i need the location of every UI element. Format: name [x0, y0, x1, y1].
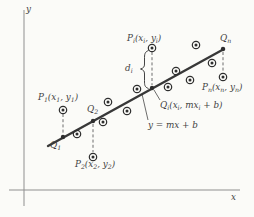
q2-label: Q2 [87, 104, 98, 115]
label-pointer-line [142, 94, 148, 120]
qn-label-text: Q [220, 33, 227, 43]
di-brace [141, 51, 149, 89]
x-axis-label: x [231, 192, 236, 202]
scatter-point-dot [195, 44, 198, 47]
line-point-dot [221, 47, 225, 51]
line-point-dot [61, 135, 65, 139]
di-label: di [125, 63, 133, 74]
scatter-point-dot [211, 62, 214, 65]
scatter-point-dot [189, 79, 192, 82]
qi-label-text: , mx [180, 100, 199, 110]
y-axis-label: y [25, 4, 32, 14]
line-point-dot [150, 86, 154, 90]
pn-label-text: (x [212, 82, 220, 92]
p2-label-text: ) [111, 159, 116, 169]
q2-label-text: 2 [93, 108, 98, 115]
equation-label: y = mx + b [147, 120, 198, 130]
equation-label-text: y = mx + b [147, 120, 198, 130]
p2-label-text: (x [85, 159, 93, 169]
scatter-point-dot [62, 109, 65, 112]
q2-label-text: Q [87, 104, 94, 114]
least-squares-figure: yxP1(x1, y1)Q1P2(x2, y2)Q2Pi(xi, yi)diQi… [0, 0, 254, 217]
y-axis-label-text: y [25, 4, 32, 14]
p1-label-text: (x [48, 92, 56, 102]
pi-label-text: ) [157, 33, 162, 43]
scatter-point-dot [151, 47, 154, 50]
scatter-point-dot [76, 133, 79, 136]
pn-label-text: ) [238, 82, 243, 92]
pi-label-text: (x [135, 33, 143, 43]
p1-label-text: ) [74, 92, 79, 102]
label-pointer-line [154, 90, 160, 100]
pi-label: Pi(xi, yi) [126, 33, 162, 44]
scatter-point-dot [107, 101, 110, 104]
diagram-svg: yxP1(x1, y1)Q1P2(x2, y2)Q2Pi(xi, yi)diQi… [0, 0, 254, 217]
p1-label: P1(x1, y1) [37, 92, 79, 103]
scatter-point-dot [175, 70, 178, 73]
qi-label-text: (x [169, 100, 177, 110]
scatter-point-dot [136, 88, 139, 91]
q1-label-text: 1 [57, 144, 61, 151]
qn-label-text: n [227, 37, 231, 44]
di-label-text: i [131, 67, 133, 74]
qn-label: Qn [220, 33, 231, 44]
x-axis-label-text: x [231, 192, 236, 202]
qi-label-text: + b) [200, 100, 223, 110]
scatter-point-dot [222, 76, 225, 79]
q1-label: Q1 [50, 140, 61, 151]
scatter-point-dot [126, 110, 129, 113]
pn-label: Pn(xn, yn) [201, 82, 243, 93]
scatter-point-dot [167, 86, 170, 89]
line-point-dot [91, 119, 95, 123]
qi-label-text: Q [160, 100, 167, 110]
qi-label: Qi(xi, mxi + b) [160, 100, 223, 111]
scatter-point-dot [102, 121, 105, 124]
q1-label-text: Q [50, 140, 57, 150]
